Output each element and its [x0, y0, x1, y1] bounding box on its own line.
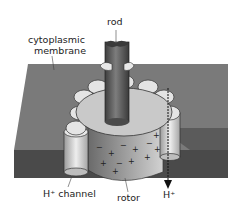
flagellar-motor-diagram: −+− +−+ +−+ +++	[0, 0, 238, 209]
svg-text:+: +	[144, 153, 151, 162]
svg-text:−: −	[146, 139, 153, 148]
svg-text:+: +	[153, 131, 160, 140]
svg-text:+: +	[100, 159, 107, 168]
svg-text:+: +	[108, 149, 115, 158]
h-channel-label: H⁺ channel	[43, 188, 96, 199]
rotor-label: rotor	[117, 192, 140, 203]
rod	[100, 41, 134, 126]
svg-text:−: −	[120, 141, 127, 150]
svg-text:+: +	[112, 167, 119, 176]
proton-label: H⁺	[163, 189, 175, 200]
rod-label: rod	[107, 16, 123, 27]
svg-text:+: +	[132, 145, 139, 154]
svg-text:+: +	[128, 157, 135, 166]
membrane-label-line1: cytoplasmic	[28, 34, 85, 45]
svg-text:−: −	[96, 143, 103, 152]
membrane-label-line2: membrane	[34, 45, 86, 56]
